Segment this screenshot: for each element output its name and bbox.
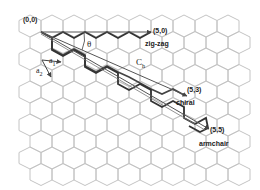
chiral-point-label: (5,3)	[187, 86, 201, 93]
zigzag-label: zig-zag	[145, 40, 169, 47]
hexagon-cell	[184, 164, 206, 186]
hexagon-cell	[118, 164, 140, 186]
hexagon-cell	[140, 164, 162, 186]
hexagon-cell	[52, 164, 74, 186]
ch-label: Ch	[136, 58, 145, 69]
graphene-lattice-diagram	[0, 0, 260, 190]
armchair-point-label: (5,5)	[210, 126, 224, 133]
hexagon-cell	[96, 164, 118, 186]
a1-label: a1	[49, 57, 56, 67]
hexagon-cell	[74, 164, 96, 186]
theta-label: θ	[87, 40, 91, 49]
hexagon-cell	[30, 164, 52, 186]
hexagon-cell	[162, 164, 184, 186]
armchair-label: armchair	[199, 140, 229, 147]
a2-label: a2	[36, 67, 43, 77]
origin-label: (0,0)	[23, 16, 37, 23]
chiral-label: chiral	[176, 99, 195, 106]
armchair-vector-2	[41, 34, 205, 130]
theta-arc	[82, 32, 85, 50]
hexagon-cell	[228, 164, 250, 186]
zigzag-path	[41, 32, 151, 38]
hexagon-cell	[206, 164, 228, 186]
hexagonal-lattice	[19, 15, 250, 186]
zigzag-point-label: (5,0)	[153, 27, 167, 34]
